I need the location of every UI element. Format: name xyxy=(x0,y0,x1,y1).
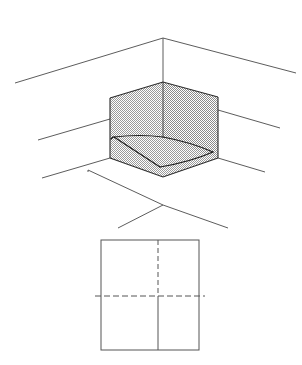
perspective-view-group xyxy=(15,38,296,228)
ceiling-edge-left-line xyxy=(15,38,163,83)
technical-drawing-figure xyxy=(0,0,302,365)
projection-left-leg xyxy=(88,170,163,205)
plan-view-group xyxy=(95,240,205,350)
wall-line-left xyxy=(38,119,110,140)
floor-line-right xyxy=(218,158,265,172)
projection-right-leg xyxy=(163,205,228,228)
drawing-canvas xyxy=(0,0,302,365)
ceiling-edge-right-line xyxy=(163,38,296,73)
floor-line-left xyxy=(42,158,110,178)
projection-down-left-leg xyxy=(118,205,163,228)
wall-line-right xyxy=(218,110,280,128)
plan-square-outline xyxy=(101,240,199,350)
